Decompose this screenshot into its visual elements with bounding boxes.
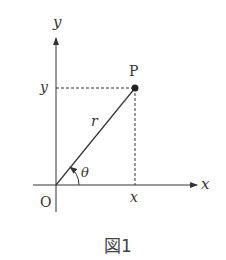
x-tick-label: x — [130, 189, 138, 205]
origin-label: O — [40, 194, 51, 210]
angle-label: θ — [81, 165, 89, 180]
radius-label: r — [91, 113, 99, 129]
radius-line — [56, 88, 135, 185]
figure-caption: 図1 — [104, 236, 132, 256]
polar-coordinate-diagram: y x O P r θ x y 図1 — [0, 0, 226, 260]
point-label: P — [129, 63, 138, 79]
x-axis-label: x — [201, 175, 210, 193]
y-axis-label: y — [52, 13, 62, 31]
y-tick-label: y — [39, 79, 49, 95]
angle-arc — [70, 167, 79, 185]
point-p — [132, 85, 139, 92]
